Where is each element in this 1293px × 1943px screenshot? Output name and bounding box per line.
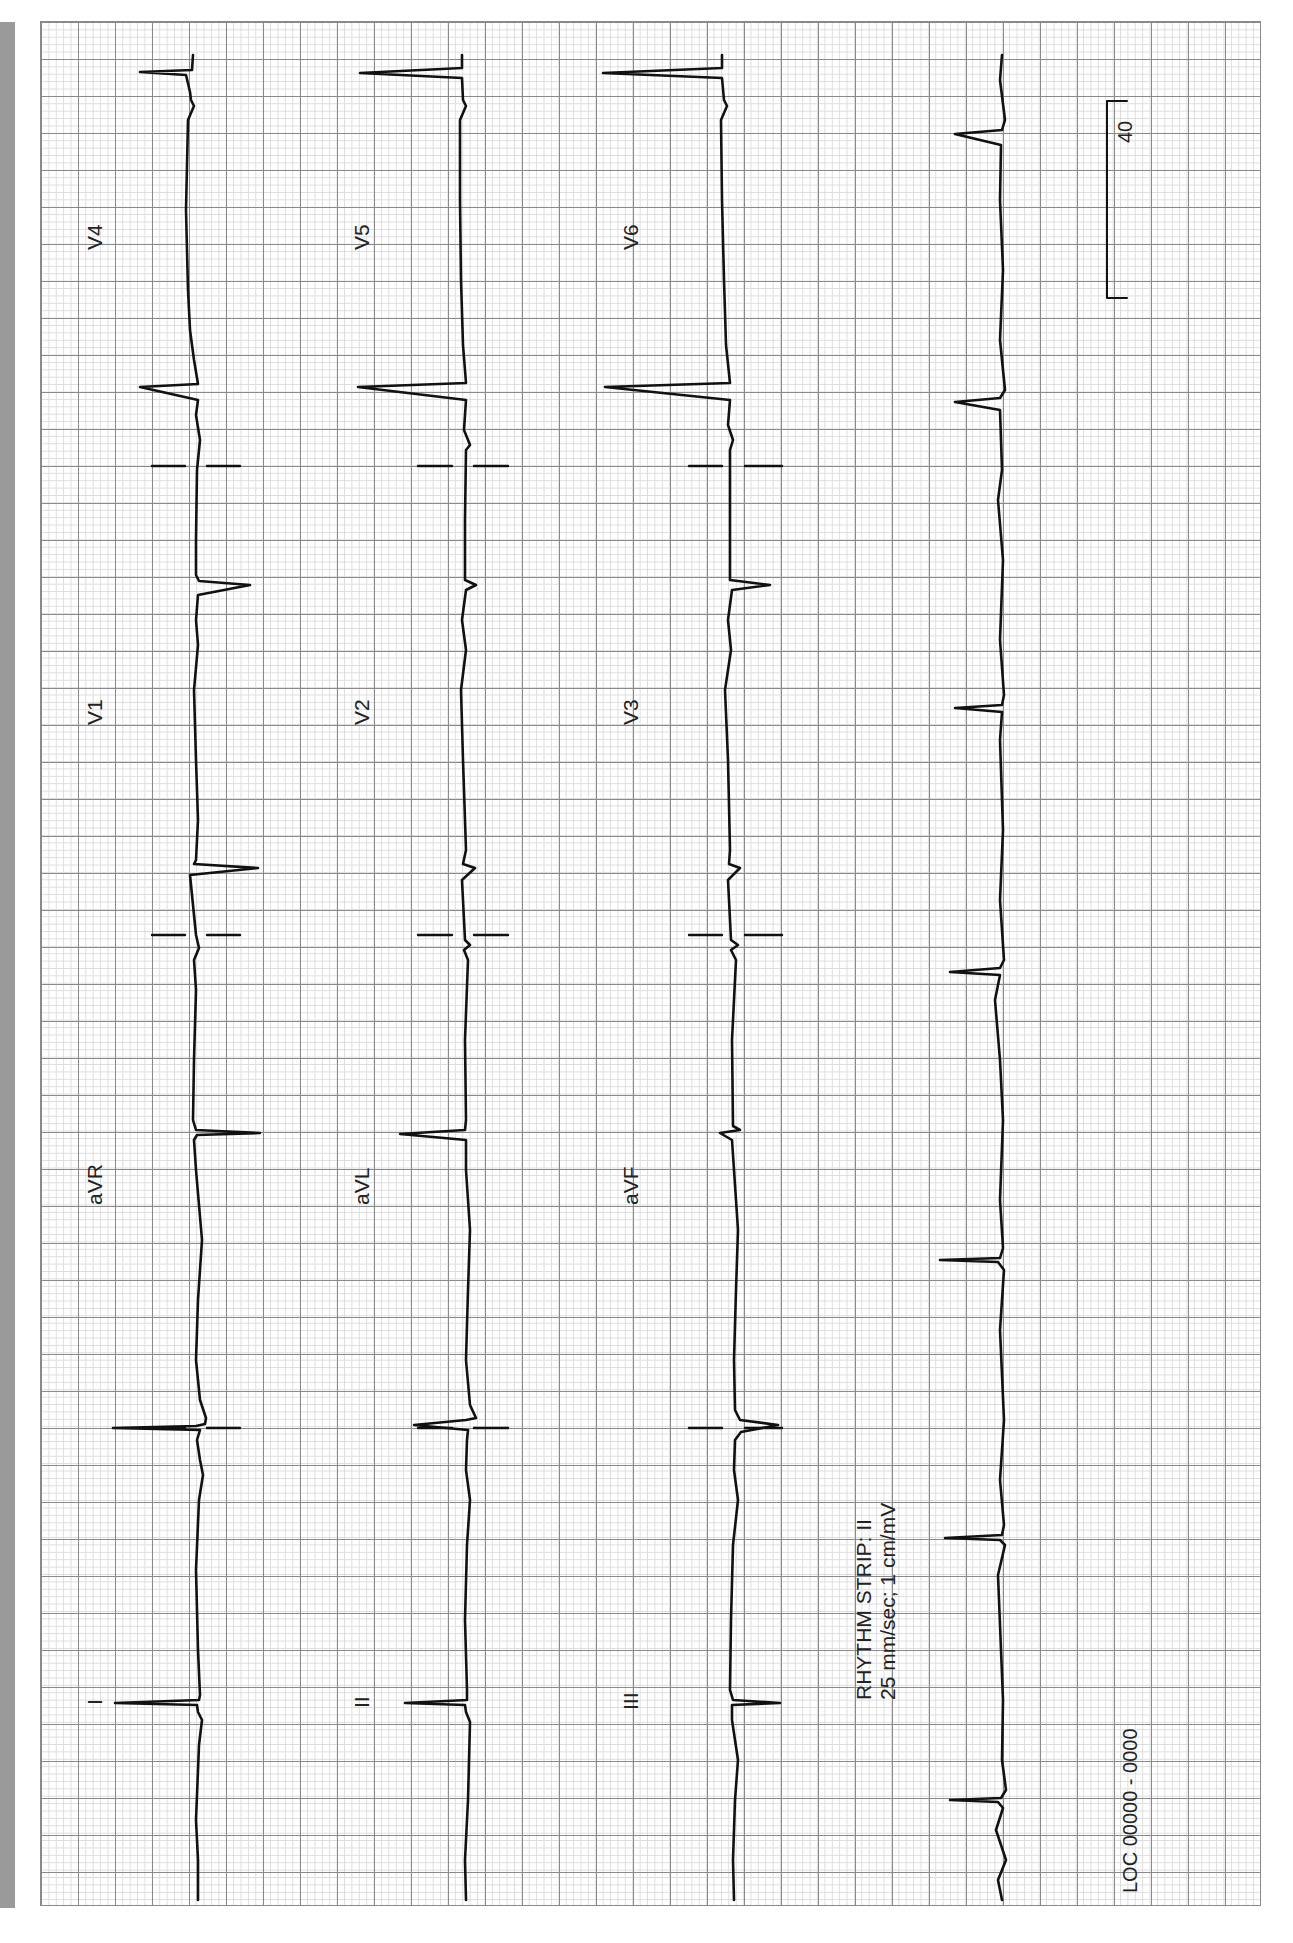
rhythm-strip-settings: 25 mm/sec; 1 cm/mV [876, 1503, 900, 1700]
trace-rhythm-ii [940, 55, 1006, 1900]
trace-row2 [358, 55, 476, 1900]
lead-label-v6: V6 [620, 224, 641, 250]
lead-label-v5: V5 [351, 224, 372, 250]
lead-label-v4: V4 [84, 224, 105, 250]
trace-row1 [113, 55, 260, 1900]
ecg-traces [0, 0, 1293, 1943]
rhythm-strip-title: RHYTHM STRIP: II [852, 1503, 876, 1700]
lead-label-avf: aVF [620, 1166, 641, 1205]
lead-label-avl: aVL [351, 1168, 372, 1205]
lead-label-v2: V2 [351, 699, 372, 725]
lead-label-i: I [84, 1699, 105, 1705]
lead-label-ii: II [351, 1696, 372, 1708]
calibration-label: 40 [1115, 121, 1135, 143]
lead-label-iii: III [620, 1692, 641, 1710]
rhythm-strip-info: RHYTHM STRIP: II 25 mm/sec; 1 cm/mV [852, 1503, 900, 1700]
location-label: LOC 00000 - 0000 [1120, 1728, 1140, 1893]
lead-label-v3: V3 [620, 699, 641, 725]
trace-row3 [603, 55, 780, 1900]
lead-label-avr: aVR [84, 1164, 105, 1205]
lead-label-v1: V1 [84, 699, 105, 725]
